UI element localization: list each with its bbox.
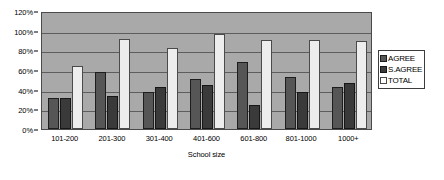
x-tick-label: 301-400: [146, 134, 173, 143]
y-tick-mark: [34, 51, 38, 52]
bar-agree-101-200: [48, 98, 59, 129]
legend: AGREES.AGREETOTAL: [378, 50, 425, 89]
y-tick-label: 0%: [22, 126, 33, 135]
bar-total-101-200: [72, 66, 83, 129]
legend-label: S.AGREE: [388, 65, 422, 74]
bar-sagree-1000+: [344, 83, 355, 129]
bar-sagree-101-200: [60, 98, 71, 129]
legend-swatch-total-icon: [380, 77, 387, 84]
legend-label: TOTAL: [388, 76, 412, 85]
legend-item: S.AGREE: [380, 64, 422, 75]
bar-agree-801-1000: [285, 77, 296, 129]
bar-agree-201-300: [95, 72, 106, 129]
y-tick-mark: [34, 12, 38, 13]
bar-group: [42, 13, 89, 129]
y-tick-label: 120%: [14, 8, 33, 17]
legend-item: TOTAL: [380, 75, 422, 86]
bar-agree-601-800: [237, 62, 248, 129]
x-tick-label: 401-600: [193, 134, 220, 143]
bar-group: [89, 13, 136, 129]
x-tick-label: 201-300: [99, 134, 126, 143]
bar-agree-301-400: [143, 92, 154, 129]
bar-group: [278, 13, 325, 129]
legend-swatch-s-agree-icon: [380, 66, 387, 73]
bar-agree-1000+: [332, 87, 343, 129]
y-tick-mark: [34, 31, 38, 32]
bar-chart: 0%20%40%60%80%100%120% 101-200201-300301…: [0, 0, 444, 180]
y-tick-mark: [34, 71, 38, 72]
y-tick-label: 60%: [18, 67, 33, 76]
y-axis: 0%20%40%60%80%100%120%: [0, 12, 38, 130]
y-tick-label: 80%: [18, 47, 33, 56]
legend-label: AGREE: [388, 54, 415, 63]
bar-total-301-400: [167, 48, 178, 129]
y-tick-label: 100%: [14, 27, 33, 36]
x-tick-label: 101-200: [51, 134, 78, 143]
x-tick-label: 801-1000: [286, 134, 317, 143]
plot-area: [41, 12, 372, 130]
legend-item: AGREE: [380, 53, 422, 64]
x-axis-title: School size: [41, 150, 372, 159]
bar-group: [184, 13, 231, 129]
bar-sagree-401-600: [202, 85, 213, 129]
bar-total-1000+: [356, 41, 367, 129]
legend-swatch-agree-icon: [380, 55, 387, 62]
x-tick-label: 1000+: [338, 134, 359, 143]
bar-agree-401-600: [190, 79, 201, 129]
x-axis: 101-200201-300301-400401-600601-800801-1…: [41, 134, 372, 150]
y-tick-mark: [34, 90, 38, 91]
bar-group: [137, 13, 184, 129]
bar-group: [231, 13, 278, 129]
bar-total-401-600: [214, 34, 225, 129]
bar-total-801-1000: [309, 40, 320, 129]
bar-group: [326, 13, 373, 129]
bar-sagree-801-1000: [297, 92, 308, 129]
bar-sagree-301-400: [155, 87, 166, 129]
x-tick-label: 601-800: [240, 134, 267, 143]
y-tick-mark: [34, 130, 38, 131]
bar-sagree-601-800: [249, 105, 260, 129]
bar-total-201-300: [119, 39, 130, 129]
bar-total-601-800: [261, 40, 272, 129]
y-tick-label: 20%: [18, 106, 33, 115]
bars-layer: [42, 13, 371, 129]
y-tick-mark: [34, 110, 38, 111]
bar-sagree-201-300: [107, 96, 118, 129]
y-tick-label: 40%: [18, 86, 33, 95]
